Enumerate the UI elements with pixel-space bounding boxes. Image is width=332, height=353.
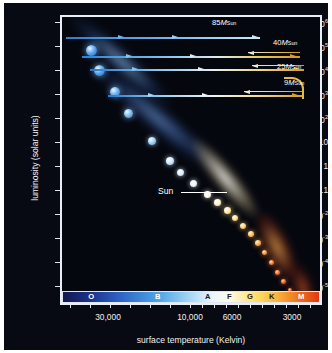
track-label-85-msun: 85MSun [212,19,236,27]
x-tick-6000: 6000 [223,313,242,321]
diagram-panel: 106 105 104 103 102 10 1 0.1 10-2 10-3 1… [4,3,328,350]
star-dot [275,270,280,275]
track-label-25-msun: 25MSun [277,63,301,71]
star-dot [262,250,267,255]
sun-leader-line [181,192,227,193]
track-arrowhead [202,93,208,97]
spectral-class-B: B [119,292,196,302]
star-dot [232,215,238,221]
x-tick-30000: 30,000 [95,313,121,321]
spectral-class-M: M [283,292,319,302]
main-sequence-glow-upper [60,15,252,191]
x-axis-title: surface temperature (Kelvin) [60,335,322,345]
track-arrowhead [126,54,132,58]
track-label-9-msun: 9MSun [284,79,304,87]
y-axis-title: luminosity (solar units) [30,73,40,243]
spectral-class-A: A [196,292,219,302]
track-arrowhead [252,35,258,39]
track-arrowhead [132,67,138,71]
star-dot [166,157,174,165]
spectral-class-K: K [260,292,283,302]
track-arrowhead [290,54,296,58]
spectral-class-O: O [63,292,119,302]
star-dot [240,223,246,229]
track-label-40-msun: 40MSun [273,39,297,47]
main-sequence-glow-lower [177,154,322,305]
star-dot [148,137,156,145]
star-dot [281,279,286,284]
star-dot [86,45,97,56]
hr-diagram-figure: 106 105 104 103 102 10 1 0.1 10-2 10-3 1… [0,0,332,353]
star-dot [214,199,221,206]
star-dot [190,180,197,187]
star-dot [248,231,254,237]
star-dot [177,169,184,176]
track-arrowhead [118,35,124,39]
star-dot [124,109,133,118]
track-arrowhead [148,93,154,97]
track-arrowhead [190,54,196,58]
star-dot [269,260,274,265]
main-sequence-glow-mid [119,72,322,283]
track-arrowhead [198,67,204,71]
spectral-class-F: F [219,292,239,302]
plot-area: 85MSun 40MSun 25MSun 9MSun Sun [60,15,322,305]
x-tick-3000: 3000 [283,313,302,321]
spectral-class-G: G [240,292,260,302]
x-tick-10000: 10,000 [177,313,203,321]
star-dot-sun [224,207,231,214]
sun-annotation-label: Sun [158,187,173,196]
star-dot [255,240,261,246]
spectral-class-bar: O B A F G K M [62,291,320,303]
track-arrowhead [172,35,178,39]
